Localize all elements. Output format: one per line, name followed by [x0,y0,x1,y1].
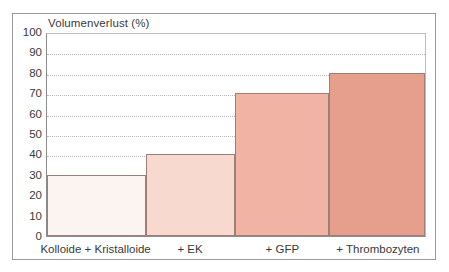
x-axis-tick-4: + Thrombozyten [330,238,426,259]
y-axis-tick-90: 90 [8,48,42,60]
x-axis-tick-labels: Kolloide + Kristalloide+ EK+ GFP+ Thromb… [46,238,426,259]
x-axis-tick-2: + EK [145,238,235,259]
y-axis-tick-20: 20 [8,190,42,202]
bar-1 [47,175,146,236]
y-axis-tick-10: 10 [8,211,42,223]
bar-4 [329,73,425,236]
bar-3 [235,93,330,236]
bar-2 [146,154,235,236]
y-axis-tick-100: 100 [8,27,42,39]
y-axis-tick-30: 30 [8,170,42,182]
y-axis-tick-labels: 0102030405060708090100 [4,33,42,237]
y-axis-tick-40: 40 [8,150,42,162]
y-axis-tick-0: 0 [8,231,42,243]
y-axis-tick-70: 70 [8,88,42,100]
x-axis-tick-1: Kolloide + Kristalloide [46,238,145,259]
y-axis-title: Volumenverlust (%) [48,17,150,29]
chart-figure: Volumenverlust (%) 010203040506070809010… [0,0,449,272]
bar-series [47,34,425,236]
y-axis-tick-50: 50 [8,129,42,141]
x-axis-tick-3: + GFP [235,238,330,259]
plot-area [46,33,426,237]
y-axis-tick-60: 60 [8,109,42,121]
y-axis-tick-80: 80 [8,68,42,80]
